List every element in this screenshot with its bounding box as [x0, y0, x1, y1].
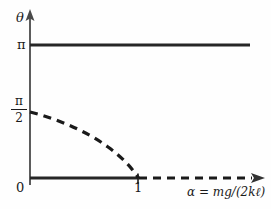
bifurcation-diagram-figure: θ π π 2 0 1 α = mg/(2kℓ) — [0, 0, 271, 209]
origin-tick-label-zero: 0 — [16, 181, 24, 194]
x-tick-label-one: 1 — [134, 181, 142, 194]
branch-arccos-unstable — [30, 112, 139, 178]
fraction-bar — [11, 109, 27, 111]
x-axis-arrowhead — [251, 173, 265, 183]
pi-over-2-denominator: 2 — [11, 112, 27, 124]
plot-canvas — [0, 0, 271, 209]
x-axis-label: α = mg/(2kℓ) — [187, 186, 265, 198]
y-tick-label-pi-over-2: π 2 — [11, 95, 27, 124]
pi-over-2-numerator: π — [11, 95, 27, 107]
y-axis-label: θ — [16, 11, 24, 24]
y-tick-label-pi: π — [17, 38, 26, 51]
